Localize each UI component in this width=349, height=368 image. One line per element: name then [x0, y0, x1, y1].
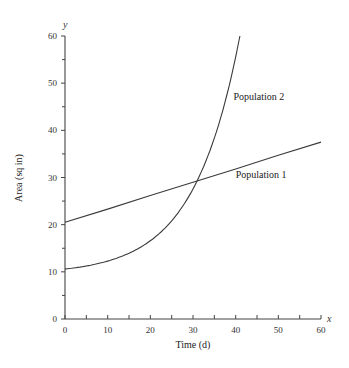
y-axis-title: Area (sq in) [13, 154, 25, 202]
x-axis: 0102030405060 [63, 315, 326, 335]
series-line-1 [65, 142, 321, 222]
x-tick-label: 20 [146, 325, 156, 335]
series-line-2 [65, 36, 240, 269]
series-label-2: Population 2 [234, 91, 285, 102]
y-axis: 0102030405060 [48, 31, 65, 324]
y-tick-label: 50 [48, 78, 58, 88]
line-chart: 0102030405060 0102030405060 Population 1… [0, 0, 349, 368]
y-tick-label: 60 [48, 31, 58, 41]
y-axis-letter: y [62, 19, 68, 30]
series-lines [65, 36, 321, 269]
y-tick-label: 30 [48, 173, 58, 183]
x-tick-label: 60 [317, 325, 327, 335]
y-tick-label: 10 [48, 267, 58, 277]
x-tick-label: 30 [189, 325, 199, 335]
series-labels: Population 1Population 2 [234, 91, 287, 180]
x-tick-label: 40 [231, 325, 241, 335]
y-tick-label: 40 [48, 125, 58, 135]
y-tick-label: 20 [48, 220, 58, 230]
series-label-1: Population 1 [236, 169, 287, 180]
y-tick-label: 0 [53, 314, 58, 324]
x-axis-title: Time (d) [176, 339, 211, 351]
x-tick-label: 10 [103, 325, 113, 335]
x-axis-letter: x [326, 313, 332, 324]
x-tick-label: 50 [274, 325, 284, 335]
x-tick-label: 0 [63, 325, 68, 335]
